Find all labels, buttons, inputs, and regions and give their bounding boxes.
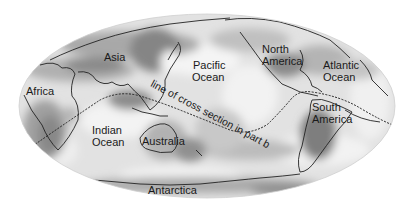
label-africa: Africa bbox=[26, 85, 55, 97]
globe-surface bbox=[0, 0, 412, 203]
label-indian-line1: Indian bbox=[92, 124, 122, 136]
world-tomography-map: Asia Africa Pacific Ocean North America … bbox=[0, 0, 412, 203]
label-australia: Australia bbox=[142, 135, 186, 147]
label-atlantic-line2: Ocean bbox=[323, 71, 355, 83]
label-south-america-line2: America bbox=[312, 113, 353, 125]
label-indian-line2: Ocean bbox=[92, 136, 124, 148]
label-pacific-line1: Pacific bbox=[193, 59, 226, 71]
label-north-america-line1: North bbox=[262, 43, 289, 55]
label-atlantic-line1: Atlantic bbox=[323, 59, 360, 71]
label-asia: Asia bbox=[104, 51, 126, 63]
label-pacific-line2: Ocean bbox=[192, 71, 224, 83]
label-south-america-line1: South bbox=[312, 101, 341, 113]
label-antarctica: Antarctica bbox=[148, 184, 198, 196]
map-canvas: Asia Africa Pacific Ocean North America … bbox=[0, 0, 412, 203]
label-north-america-line2: America bbox=[262, 55, 303, 67]
